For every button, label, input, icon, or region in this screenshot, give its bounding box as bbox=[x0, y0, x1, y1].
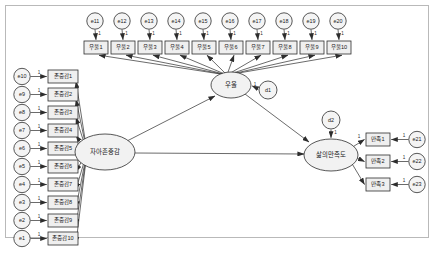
path-coefficient: 1 bbox=[403, 155, 406, 160]
error-label-e1: e1 bbox=[19, 235, 25, 241]
error-label-e2: e2 bbox=[19, 217, 25, 223]
observed-label-존중감4: 존중감4 bbox=[54, 127, 72, 133]
observed-label-만족2: 만족2 bbox=[371, 157, 384, 165]
error-path-e14 bbox=[176, 29, 177, 39]
error-path-e20 bbox=[338, 29, 339, 39]
observed-label-존중감6: 존중감6 bbox=[54, 163, 72, 169]
path-coefficient: 1 bbox=[334, 130, 337, 135]
path-coefficient: 1 bbox=[179, 31, 182, 36]
observed-label-만족3: 만족3 bbox=[371, 180, 384, 188]
structural-path-depression-to-satisfaction bbox=[245, 94, 309, 142]
path-coefficient: 1 bbox=[38, 106, 41, 111]
node-layer bbox=[14, 13, 425, 247]
error-label-e12: e12 bbox=[118, 18, 127, 24]
path-coefficient: 1 bbox=[38, 88, 41, 93]
observed-label-우울10: 우울10 bbox=[331, 44, 347, 51]
error-label-e22: e22 bbox=[413, 158, 422, 164]
observed-label-존중감3: 존중감3 bbox=[54, 109, 72, 115]
observed-label-만족1: 만족1 bbox=[371, 135, 384, 143]
diagram-canvas: 우울1우울2우울3우울4우울5우울6우울7우울8우울9우울10e111e121e… bbox=[0, 0, 438, 264]
path-coefficient: 1 bbox=[233, 31, 236, 36]
observed-label-우울9: 우울9 bbox=[305, 44, 318, 51]
loading-life-satisfaction-만족3 bbox=[351, 162, 365, 185]
error-label-e10: e10 bbox=[18, 73, 27, 79]
error-label-e15: e15 bbox=[199, 18, 208, 24]
observed-label-우울3: 우울3 bbox=[143, 44, 156, 51]
path-coefficient: 1 bbox=[38, 160, 41, 165]
error-path-e13 bbox=[149, 29, 150, 39]
structural-path-esteem-to-satisfaction bbox=[135, 153, 304, 154]
path-coefficient: 1 bbox=[38, 142, 41, 147]
disturbance-label-d1: d1 bbox=[265, 87, 271, 93]
edge-layer bbox=[30, 29, 408, 243]
path-coefficient: 1 bbox=[38, 124, 41, 129]
error-label-e20: e20 bbox=[334, 18, 343, 24]
path-coefficient: 1 bbox=[403, 178, 406, 183]
latent-label-life-satisfaction: 삶의만족도 bbox=[316, 150, 346, 159]
error-path-e12 bbox=[122, 29, 123, 39]
error-label-e14: e14 bbox=[172, 18, 181, 24]
error-label-e6: e6 bbox=[19, 145, 25, 151]
latent-label-self-esteem: 자아존중감 bbox=[90, 147, 120, 156]
diagram-svg-wrapper: 우울1우울2우울3우울4우울5우울6우울7우울8우울9우울10e111e121e… bbox=[0, 0, 438, 264]
observed-label-우울8: 우울8 bbox=[278, 44, 291, 51]
path-coefficient: 1 bbox=[38, 70, 41, 75]
structural-path-esteem-to-depression bbox=[127, 96, 215, 141]
error-path-e19 bbox=[311, 29, 312, 39]
path-coefficient: 1 bbox=[314, 31, 317, 36]
observed-label-존중감8: 존중감8 bbox=[54, 199, 72, 205]
disturbance-label-d2: d2 bbox=[328, 117, 334, 123]
error-label-e18: e18 bbox=[280, 18, 289, 24]
path-coefficient: 1 bbox=[206, 31, 209, 36]
path-coefficient: 1 bbox=[358, 134, 361, 139]
observed-label-존중감9: 존중감9 bbox=[54, 217, 72, 223]
error-label-e19: e19 bbox=[307, 18, 316, 24]
observed-label-우울1: 우울1 bbox=[89, 44, 102, 51]
observed-label-존중감1: 존중감1 bbox=[54, 73, 72, 79]
path-coefficient: 1 bbox=[152, 31, 155, 36]
observed-label-우울2: 우울2 bbox=[116, 44, 129, 51]
error-path-e18 bbox=[284, 29, 285, 39]
path-coefficient: 1 bbox=[38, 196, 41, 201]
observed-label-존중감5: 존중감5 bbox=[54, 145, 72, 151]
path-coefficient: 1 bbox=[38, 214, 41, 219]
path-coefficient: 1 bbox=[38, 232, 41, 237]
error-label-e17: e17 bbox=[253, 18, 262, 24]
loading-depression-우울9 bbox=[227, 55, 315, 75]
observed-label-우울4: 우울4 bbox=[170, 44, 183, 51]
path-coefficient: 1 bbox=[98, 31, 101, 36]
error-label-e4: e4 bbox=[19, 181, 25, 187]
error-label-e13: e13 bbox=[145, 18, 154, 24]
latent-label-depression: 우울 bbox=[225, 81, 237, 89]
error-label-e3: e3 bbox=[19, 199, 25, 205]
loading-depression-우울2 bbox=[126, 55, 227, 75]
path-coefficient: 1 bbox=[254, 82, 257, 87]
error-label-e11: e11 bbox=[91, 18, 100, 24]
path-coefficient: 1 bbox=[38, 178, 41, 183]
path-coefficient: 1 bbox=[260, 31, 263, 36]
observed-label-우울6: 우울6 bbox=[224, 44, 237, 51]
path-coefficient: 1 bbox=[125, 31, 128, 36]
error-label-e5: e5 bbox=[19, 163, 25, 169]
error-path-e17 bbox=[257, 29, 258, 39]
error-path-e16 bbox=[230, 29, 231, 39]
loading-depression-우울4 bbox=[180, 55, 227, 75]
observed-label-존중감7: 존중감7 bbox=[54, 181, 72, 187]
observed-label-우울7: 우울7 bbox=[251, 44, 264, 51]
observed-label-존중감2: 존중감2 bbox=[54, 91, 72, 97]
error-label-e21: e21 bbox=[413, 136, 422, 142]
error-path-e15 bbox=[203, 29, 204, 39]
error-path-e11 bbox=[95, 29, 96, 39]
path-coefficient: 1 bbox=[341, 31, 344, 36]
error-label-e23: e23 bbox=[413, 181, 422, 187]
observed-label-우울5: 우울5 bbox=[197, 44, 210, 51]
error-label-e7: e7 bbox=[19, 127, 25, 133]
path-coefficient: 1 bbox=[403, 133, 406, 138]
error-label-e9: e9 bbox=[19, 91, 25, 97]
error-label-e16: e16 bbox=[226, 18, 235, 24]
path-coefficient: 1 bbox=[287, 31, 290, 36]
error-label-e8: e8 bbox=[19, 109, 25, 115]
observed-label-존중감10: 존중감10 bbox=[52, 235, 73, 241]
